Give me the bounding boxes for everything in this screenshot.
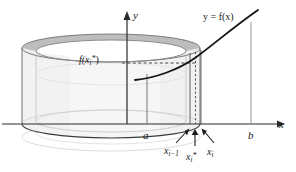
partition-left-label: xi−1 [164,146,179,158]
sample-point-superscript: * [192,151,196,160]
curve-equation-label: y = f(x) [203,12,234,22]
y-axis-label-text: y [133,9,138,21]
left-endpoint-label: a [143,130,149,141]
y-axis-label: y [133,10,138,21]
y-axis-arrowhead [124,11,131,20]
curve-equation-text: y = f(x) [203,11,234,22]
partition-right-subscript: i [211,151,213,159]
sample-point-label: xi* [186,152,196,164]
shell-height-prefix: f(x [79,54,90,65]
shell-height-label: f(xi*) [79,55,99,67]
shell-method-figure: y x a b y = f(x) f(xi*) xi−1 xi* xi [0,0,296,172]
figure-canvas [0,0,296,172]
arrow-head-x-i [202,129,207,136]
top-inner-ellipse [36,40,186,62]
x-axis-label-text: x [279,118,284,130]
right-endpoint-label-text: b [248,129,254,141]
wall-shade-right [160,48,200,136]
partition-left-subscript: i−1 [168,150,178,158]
partition-right-label: xi [207,147,213,159]
right-endpoint-label: b [248,130,254,141]
shell-height-close-paren: ) [96,54,99,65]
wall-shade-left [22,48,70,136]
arrow-shaft-x-i [204,131,214,143]
left-endpoint-label-text: a [143,129,149,141]
x-axis-label: x [279,119,284,130]
top-rim-annulus [22,34,200,62]
